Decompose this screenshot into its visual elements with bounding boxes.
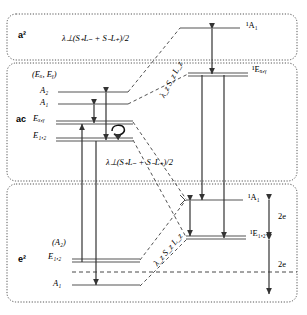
spin-orbit-loop-icon <box>112 125 124 135</box>
left-transition-arrows <box>82 93 106 285</box>
panel-tag-ac: ac <box>16 115 26 124</box>
corr-A1-to-1Exy <box>128 74 188 104</box>
level-label-E12-lower: E₁,₂ <box>48 252 61 261</box>
corr-E12-to-1E12 <box>133 140 186 237</box>
operator-lambda-perp-top: λ⊥(S₊L₋ + S₋L₊)/2 <box>62 34 129 43</box>
level-brackets <box>180 195 185 205</box>
level-label-A1-lower: A₁ <box>53 279 61 288</box>
level-label-E12: E₁,₂ <box>33 131 46 140</box>
level-label-1A1-bot: ¹A₁ <box>248 193 260 202</box>
panel-tag-e2: e² <box>18 255 26 264</box>
left-group-label-bottom: (A₂) <box>52 238 66 247</box>
energy-level-figure: a² ac e² (Eₓ, Eᵧ) (A₂) A₂ A₁ Eₓ,ᵧ E₁,₂ E… <box>0 0 307 315</box>
gap-label-lower: 2e <box>278 260 286 269</box>
level-label-Exy: Eₓ,ᵧ <box>33 114 45 123</box>
level-label-1E12: ¹E₁,₂ <box>250 229 266 238</box>
gap-label-upper: 2e <box>278 212 286 221</box>
panel-tag-a2: a² <box>18 31 26 40</box>
operator-lambda-perp-middle: λ⊥(S₊L₋ + S₋L₊)/2 <box>106 158 173 167</box>
left-group-label-top: (Eₓ, Eᵧ) <box>32 70 57 79</box>
level-label-A1: A₁ <box>40 98 48 107</box>
bracket-1A1bot <box>180 195 185 205</box>
level-label-1Exy: ¹Eₓ,ᵧ <box>252 65 267 74</box>
level-label-A2: A₂ <box>40 86 48 95</box>
level-label-1A1-top: ¹A₁ <box>246 21 258 30</box>
